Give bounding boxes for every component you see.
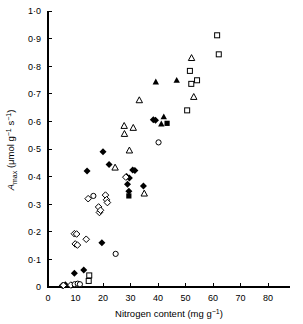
x-tick-label: 50 xyxy=(180,293,190,303)
data-point-filled-square xyxy=(126,193,131,198)
data-point-filled-square xyxy=(164,121,169,126)
y-tick-label: 0·9 xyxy=(28,34,41,44)
data-point-filled-diamond xyxy=(140,182,147,189)
y-axis-title: Amax (μmol g−1 s−1) xyxy=(5,110,18,192)
data-point-open-circle xyxy=(77,282,82,287)
y-tick-label: 1·0 xyxy=(28,6,41,16)
data-point-open-triangle xyxy=(191,94,197,100)
axis-lines xyxy=(48,11,290,287)
axes-group xyxy=(48,11,290,287)
data-point-open-square xyxy=(215,33,220,38)
data-point-open-diamond xyxy=(83,236,90,243)
chart-canvas: 01020304050607080 00·10·20·30·40·50·60·7… xyxy=(0,0,303,324)
data-point-open-triangle xyxy=(141,190,147,196)
data-point-open-square xyxy=(189,81,194,86)
data-point-open-circle xyxy=(156,140,161,145)
x-axis-title: Nitrogen content (mg g−1) xyxy=(115,308,223,320)
x-tick-label: 0 xyxy=(45,293,50,303)
y-tick-label: 0·6 xyxy=(28,117,41,127)
data-point-open-triangle xyxy=(188,55,194,61)
data-point-open-square xyxy=(86,278,91,283)
x-tick-label: 20 xyxy=(98,293,108,303)
data-point-open-triangle xyxy=(112,164,118,170)
x-tick-label: 30 xyxy=(125,293,135,303)
y-tick-label: 0·3 xyxy=(28,200,41,210)
data-point-open-square xyxy=(87,273,92,278)
x-tick-label: 10 xyxy=(70,293,80,303)
series-open-square xyxy=(86,33,221,284)
y-axis-title-group: Amax (μmol g−1 s−1) xyxy=(5,110,18,192)
data-point-open-square xyxy=(195,78,200,83)
data-point-filled-diamond xyxy=(106,161,113,168)
y-tick-label: 0·1 xyxy=(28,255,41,265)
y-tick-label: 0·5 xyxy=(28,144,41,154)
data-point-filled-diamond xyxy=(98,239,105,246)
data-point-filled-diamond xyxy=(71,270,78,277)
y-tick-label: 0·2 xyxy=(28,227,41,237)
x-tick-label: 40 xyxy=(153,293,163,303)
y-axis-ticks xyxy=(48,11,52,259)
data-point-open-circle xyxy=(113,251,118,256)
y-tick-label: 0·8 xyxy=(28,62,41,72)
x-axis-tick-labels: 01020304050607080 xyxy=(45,293,273,303)
data-point-filled-triangle xyxy=(161,113,167,119)
data-point-open-triangle xyxy=(121,131,127,137)
x-tick-label: 60 xyxy=(208,293,218,303)
data-point-open-square xyxy=(185,108,190,113)
data-point-open-square xyxy=(216,52,221,57)
data-point-filled-diamond xyxy=(84,168,91,175)
data-point-open-square xyxy=(187,68,192,73)
data-point-open-triangle xyxy=(121,122,127,128)
data-point-open-triangle xyxy=(136,97,142,103)
x-tick-label: 80 xyxy=(263,293,273,303)
series-open-diamond xyxy=(60,174,129,289)
data-points-layer xyxy=(59,33,221,289)
data-point-open-triangle xyxy=(126,147,132,153)
data-point-open-triangle xyxy=(130,124,136,130)
data-point-open-circle xyxy=(91,193,96,198)
data-point-filled-diamond xyxy=(80,266,87,273)
y-axis-tick-labels: 00·10·20·30·40·50·60·70·80·91·0 xyxy=(28,6,41,292)
x-tick-label: 70 xyxy=(235,293,245,303)
series-open-circle xyxy=(72,140,161,287)
y-tick-label: 0·4 xyxy=(28,172,41,182)
data-point-filled-triangle xyxy=(158,121,164,127)
data-point-filled-diamond xyxy=(124,181,131,188)
scatter-plot-figure: 01020304050607080 00·10·20·30·40·50·60·7… xyxy=(0,0,303,324)
series-filled-square xyxy=(126,121,169,199)
y-tick-label: 0 xyxy=(36,282,41,292)
data-point-filled-diamond xyxy=(100,148,107,155)
data-point-filled-triangle xyxy=(153,79,159,85)
y-tick-label: 0·7 xyxy=(28,89,41,99)
data-point-filled-triangle xyxy=(174,77,180,83)
